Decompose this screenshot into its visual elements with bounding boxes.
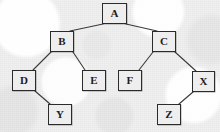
tree-node-label-b: B <box>58 36 66 47</box>
tree-node-a: A <box>102 3 127 24</box>
tree-node-e: E <box>82 70 106 91</box>
tree-edge-a-c <box>126 24 157 31</box>
tree-node-d: D <box>12 70 36 91</box>
tree-node-label-c: C <box>160 36 168 47</box>
tree-node-z: Z <box>157 104 181 125</box>
tree-node-b: B <box>50 31 74 52</box>
tree-node-y: Y <box>48 104 72 125</box>
tree-edge-b-d <box>33 52 51 70</box>
tree-node-label-f: F <box>127 75 134 86</box>
tree-node-label-z: Z <box>165 109 173 120</box>
tree-node-c: C <box>152 31 176 52</box>
tree-edge-c-x <box>175 52 196 71</box>
tree-node-label-x: X <box>199 76 207 87</box>
tree-node-label-d: D <box>20 75 28 86</box>
tree-edge-x-z <box>179 92 193 104</box>
tree-edge-c-f <box>139 52 153 70</box>
tree-node-label-y: Y <box>56 109 64 120</box>
tree-node-x: X <box>192 71 215 92</box>
tree-edge-d-y <box>35 91 50 104</box>
tree-node-label-e: E <box>90 75 98 86</box>
tree-edge-a-b <box>70 24 103 31</box>
tree-node-label-a: A <box>110 8 118 19</box>
tree-edge-b-e <box>73 52 85 70</box>
binary-tree-diagram: ABCDEFXYZ <box>0 0 220 132</box>
tree-node-f: F <box>118 70 142 91</box>
